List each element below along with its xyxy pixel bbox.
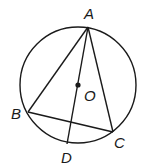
label-b: B bbox=[11, 105, 21, 122]
segment-ab bbox=[28, 27, 88, 112]
center-point-o bbox=[75, 82, 80, 87]
label-c: C bbox=[114, 134, 125, 151]
label-o: O bbox=[84, 87, 96, 104]
label-d: D bbox=[61, 149, 72, 166]
geometry-diagram: A B O C D bbox=[0, 0, 144, 168]
segment-ac bbox=[88, 27, 113, 132]
label-a: A bbox=[83, 5, 94, 22]
